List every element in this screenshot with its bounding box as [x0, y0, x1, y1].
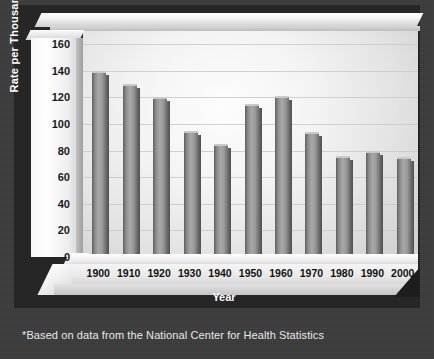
y-tick-label-60: 60: [58, 172, 70, 182]
y-tick-label-80: 80: [58, 146, 70, 156]
x-tick-label-1950: 1950: [235, 266, 266, 281]
bar-1950: [245, 104, 259, 257]
x-tick-label-1900: 1900: [83, 266, 114, 281]
x-axis-tick-labels: 1900191019201930194019501960197019801990…: [83, 266, 418, 283]
bar-1900: [92, 71, 106, 257]
chart-top-bevel: [35, 13, 424, 27]
x-tick-label-1990: 1990: [357, 266, 388, 281]
x-tick-label-1980: 1980: [326, 266, 357, 281]
x-tick-label-1960: 1960: [265, 266, 296, 281]
y-tick-label-20: 20: [58, 225, 70, 235]
bar-1920: [153, 97, 167, 257]
y-tick-label-0: 0: [64, 252, 70, 262]
bar-1930: [184, 131, 198, 257]
bar-1980: [336, 156, 350, 257]
bar-1910: [123, 84, 137, 257]
x-tick-label-1940: 1940: [205, 266, 236, 281]
y-tick-label-120: 120: [52, 92, 70, 102]
y-axis-title: Rate per Thousand: [8, 0, 20, 101]
bar-1970: [305, 132, 319, 257]
y-tick-label-100: 100: [52, 119, 70, 129]
bar-2000: [397, 157, 411, 257]
x-tick-label-1930: 1930: [174, 266, 205, 281]
chart-footnote: *Based on data from the National Center …: [22, 329, 324, 341]
bar-series: [83, 31, 418, 257]
bar-chart-figure: 020406080100120140160 190019101920193019…: [14, 5, 420, 308]
y-axis-panel-edge: [76, 38, 83, 257]
bar-1940: [214, 144, 228, 257]
y-tick-label-40: 40: [58, 199, 70, 209]
x-tick-label-2000: 2000: [387, 266, 418, 281]
y-tick-label-160: 160: [52, 39, 70, 49]
y-axis-tick-labels: 020406080100120140160: [31, 38, 76, 257]
x-tick-label-1970: 1970: [296, 266, 327, 281]
x-axis-title: Year: [124, 291, 324, 303]
bar-1960: [275, 96, 289, 257]
bar-1990: [366, 151, 380, 257]
x-tick-label-1920: 1920: [144, 266, 175, 281]
x-tick-label-1910: 1910: [113, 266, 144, 281]
y-tick-label-140: 140: [52, 66, 70, 76]
